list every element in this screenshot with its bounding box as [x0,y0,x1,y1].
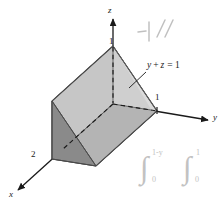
integral-sign-icon: ∫ [183,152,192,183]
handwritten-minus-stroke [138,31,146,32]
tick-label-y-1: 1 [155,93,160,102]
axis-label-z: z [108,6,112,15]
tick-label-z-1: 1 [109,37,114,46]
handwritten-integral-2: ∫ 1 0 [181,148,224,198]
integral-upper-limit: 1-y [152,148,163,157]
integral-lower-limit: 0 [195,175,199,184]
handwritten-slash-one [157,20,165,37]
handwritten-top-mark [138,20,173,41]
tick-label-x-2: 2 [31,150,36,159]
integral-upper-limit: 1 [196,148,200,157]
figure-canvas: z y x 1 1 2 y+z= 1 ∫ 1-y 0 ∫ 1 0 [0,0,224,207]
axis-label-x: x [9,190,13,199]
axis-label-y: y [213,113,217,122]
handwritten-slash-two [165,20,173,37]
integral-lower-limit: 0 [152,175,156,184]
equation-equals-one: = 1 [164,60,179,70]
equation-operator-plus: + [151,60,160,70]
plane-equation-label: y+z= 1 [147,61,180,71]
integral-sign-icon: ∫ [140,152,149,183]
